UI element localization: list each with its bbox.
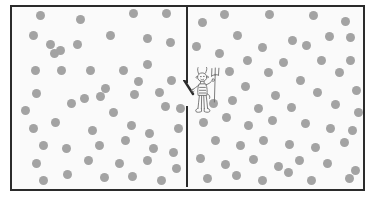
gas-molecule: [115, 159, 124, 168]
gas-molecule: [46, 40, 55, 49]
gas-molecule: [264, 68, 273, 77]
gas-molecule: [346, 33, 355, 42]
gas-molecule: [155, 88, 164, 97]
gas-molecule: [96, 92, 105, 101]
gas-molecule: [258, 43, 267, 52]
partition-lower-segment: [186, 106, 188, 187]
gas-molecule: [51, 118, 60, 127]
gas-molecule: [62, 144, 71, 153]
gas-molecule: [236, 141, 245, 150]
gas-molecule: [167, 76, 176, 85]
gas-molecule: [57, 66, 66, 75]
gas-molecule: [161, 102, 170, 111]
gas-molecule: [149, 144, 158, 153]
gas-molecule: [101, 84, 110, 93]
gas-molecule: [88, 126, 97, 135]
gas-molecule: [145, 129, 154, 138]
gas-molecule: [121, 136, 130, 145]
gas-molecule: [302, 41, 311, 50]
gas-molecule: [203, 174, 212, 183]
gas-molecule: [354, 108, 363, 117]
gas-molecule: [352, 86, 361, 95]
gas-molecule: [128, 172, 137, 181]
gas-molecule: [100, 173, 109, 182]
gas-molecule: [84, 156, 93, 165]
gas-molecule: [31, 66, 40, 75]
gas-molecule: [130, 90, 139, 99]
gas-molecule: [265, 10, 274, 19]
gas-molecule: [95, 141, 104, 150]
gas-molecule: [331, 100, 340, 109]
gas-molecule: [244, 121, 253, 130]
gas-molecule: [285, 140, 294, 149]
gas-molecule: [340, 138, 349, 147]
gas-molecule: [274, 162, 283, 171]
gas-molecule: [143, 34, 152, 43]
gas-molecule: [307, 176, 316, 185]
gas-molecule: [254, 104, 263, 113]
gas-molecule: [287, 103, 296, 112]
gas-molecule: [241, 82, 250, 91]
gas-molecule: [301, 119, 310, 128]
gas-molecule: [295, 156, 304, 165]
gas-molecule: [335, 68, 344, 77]
gas-molecule: [243, 56, 252, 65]
gas-molecule: [341, 17, 350, 26]
gas-molecule: [63, 170, 72, 179]
gas-molecule: [258, 176, 267, 185]
gas-molecule: [162, 9, 171, 18]
gas-molecule: [325, 32, 334, 41]
gas-molecule: [143, 156, 152, 165]
demon-icon: [190, 64, 224, 120]
gas-molecule: [32, 89, 41, 98]
gas-molecule: [249, 155, 258, 164]
gas-molecule: [313, 88, 322, 97]
gas-molecule: [225, 67, 234, 76]
gas-molecule: [32, 159, 41, 168]
gas-molecule: [259, 136, 268, 145]
gas-molecule: [323, 159, 332, 168]
gas-molecule: [129, 9, 138, 18]
gas-molecule: [288, 36, 297, 45]
gas-molecule: [345, 174, 354, 183]
partition-upper-segment: [186, 5, 188, 83]
gas-molecule: [39, 176, 48, 185]
gas-molecule: [192, 42, 201, 51]
gas-molecule: [271, 91, 280, 100]
gas-molecule: [109, 108, 118, 117]
gas-molecule: [73, 40, 82, 49]
maxwell-demon-figure: Maxwell's Demon A gas-filled box divided…: [0, 0, 376, 206]
gas-molecule: [309, 11, 318, 20]
gas-molecule: [86, 66, 95, 75]
maxwell-demon: [190, 64, 224, 120]
gas-molecule: [346, 56, 355, 65]
gas-molecule: [119, 66, 128, 75]
gas-molecule: [348, 126, 357, 135]
gas-molecule: [233, 31, 242, 40]
gas-molecule: [198, 18, 207, 27]
gas-molecule: [172, 164, 181, 173]
gas-molecule: [174, 124, 183, 133]
gas-molecule: [29, 124, 38, 133]
gas-molecule: [166, 38, 175, 47]
gas-molecule: [106, 31, 115, 40]
gas-molecule: [21, 106, 30, 115]
gas-molecule: [296, 76, 305, 85]
gas-molecule: [176, 104, 185, 113]
gas-molecule: [76, 15, 85, 24]
gas-molecule: [127, 121, 136, 130]
gas-molecule: [36, 11, 45, 20]
gas-molecule: [157, 176, 166, 185]
gas-molecule: [143, 60, 152, 69]
gas-molecule: [196, 154, 205, 163]
gas-molecule: [317, 56, 326, 65]
gas-molecule: [220, 10, 229, 19]
gas-molecule: [29, 31, 38, 40]
gas-molecule: [39, 141, 48, 150]
gas-molecule: [326, 124, 335, 133]
gas-molecule: [67, 99, 76, 108]
gas-molecule: [134, 77, 143, 86]
gas-molecule: [279, 58, 288, 67]
gas-molecule: [351, 166, 360, 175]
gas-molecule: [211, 136, 220, 145]
